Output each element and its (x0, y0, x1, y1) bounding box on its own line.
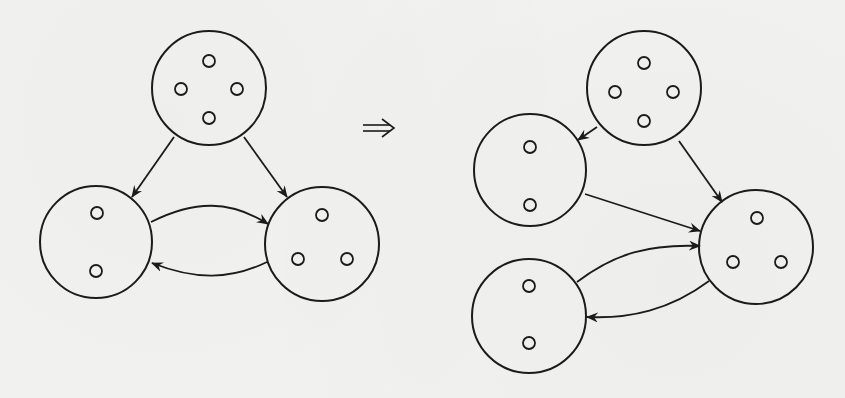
state-dot (638, 115, 650, 127)
component-circle (699, 190, 813, 304)
state-dot (667, 86, 679, 98)
component-circle (474, 114, 586, 226)
state-dot (751, 212, 763, 224)
state-dot (292, 253, 304, 265)
state-dot (775, 256, 787, 268)
state-dot (609, 86, 621, 98)
state-dot (175, 83, 187, 95)
component-circle (265, 187, 379, 301)
state-dot (638, 57, 650, 69)
node-L-bottom-right (265, 187, 379, 301)
edge-R-top-to-R-right (679, 141, 722, 202)
state-dot (523, 280, 535, 292)
edge-R-right-to-R-bottom-left (587, 281, 709, 317)
state-dot (523, 337, 535, 349)
node-R-right (699, 190, 813, 304)
state-dot (341, 253, 353, 265)
state-dot (91, 207, 103, 219)
state-dot (203, 55, 215, 67)
component-circle (152, 31, 266, 145)
state-dot (203, 112, 215, 124)
state-dot (90, 265, 102, 277)
node-R-bottom-left (472, 259, 586, 373)
node-R-top (587, 31, 701, 145)
node-L-bottom-left (40, 186, 152, 298)
component-circle (472, 259, 586, 373)
node-R-middle-left (474, 114, 586, 226)
right-graph (472, 31, 813, 373)
state-dot (231, 83, 243, 95)
edge-L-top-to-L-bottom-right (244, 137, 287, 197)
graph-transformation-diagram (0, 0, 845, 398)
component-circle (587, 31, 701, 145)
component-circle (40, 186, 152, 298)
edge-R-bottom-left-to-R-right (577, 246, 700, 282)
edge-L-bottom-left-to-L-bottom-right (151, 206, 268, 224)
state-dot (524, 141, 536, 153)
edge-L-bottom-right-to-L-bottom-left (152, 262, 267, 276)
node-L-top (152, 31, 266, 145)
edge-R-middle-left-to-R-right (585, 194, 700, 231)
edge-L-top-to-L-bottom-left (132, 137, 174, 197)
figure-canvas (0, 0, 845, 398)
left-graph (40, 31, 379, 301)
state-dot (727, 256, 739, 268)
implies-arrow-icon (363, 119, 394, 137)
state-dot (316, 209, 328, 221)
state-dot (524, 199, 536, 211)
edge-R-top-to-R-middle-left (578, 127, 597, 140)
